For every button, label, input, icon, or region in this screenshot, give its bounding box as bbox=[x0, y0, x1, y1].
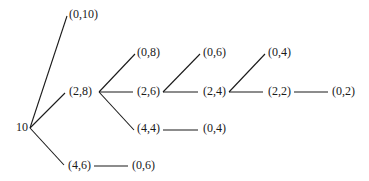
tree-edge bbox=[163, 54, 200, 92]
tree-node-label: (0,6) bbox=[203, 46, 226, 58]
tree-node-label: (2,4) bbox=[203, 85, 226, 97]
game-tree-diagram: 10 (0,10)(2,8)(4,6)(0,6)(0,8)(2,6)(4,4)(… bbox=[0, 0, 369, 181]
tree-edges bbox=[0, 0, 369, 181]
tree-node-label: (0,10) bbox=[69, 8, 98, 20]
tree-node-label: (0,4) bbox=[268, 46, 291, 58]
tree-node-label: (0,4) bbox=[203, 122, 226, 134]
tree-edge bbox=[99, 92, 134, 130]
tree-node-label: (0,8) bbox=[137, 46, 160, 58]
tree-node-label: (0,6) bbox=[132, 159, 155, 171]
tree-edge bbox=[99, 54, 135, 92]
tree-node-label: (2,8) bbox=[69, 85, 92, 97]
root-node-label: 10 bbox=[16, 121, 28, 133]
tree-node-label: (4,4) bbox=[137, 122, 160, 134]
tree-edge bbox=[229, 54, 265, 92]
tree-node-label: (2,2) bbox=[268, 85, 291, 97]
tree-node-label: (2,6) bbox=[137, 85, 160, 97]
tree-edge bbox=[30, 128, 64, 165]
tree-node-label: (4,6) bbox=[68, 159, 91, 171]
tree-edge bbox=[30, 16, 67, 128]
tree-node-label: (0,2) bbox=[332, 85, 355, 97]
